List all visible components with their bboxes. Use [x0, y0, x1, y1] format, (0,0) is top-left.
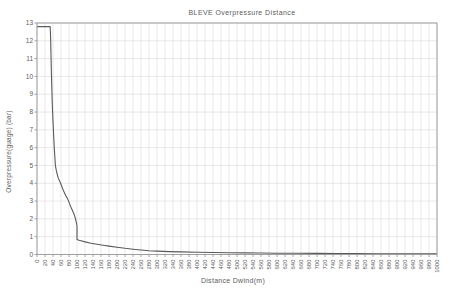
x-tick-label: 260: [138, 259, 144, 270]
x-tick-label: 560: [258, 259, 264, 270]
x-tick-label: 780: [346, 259, 352, 270]
y-tick-label: 6: [29, 144, 33, 151]
x-tick-label: 820: [362, 259, 368, 270]
y-tick-label: 13: [26, 19, 34, 26]
x-tick-label: 80: [66, 259, 72, 266]
y-tick-label: 3: [29, 197, 33, 204]
x-tick-label: 660: [298, 259, 304, 270]
x-tick-label: 320: [162, 259, 168, 270]
y-tick-labels: 012345678910111213: [26, 19, 34, 258]
y-tick-label: 9: [29, 90, 33, 97]
x-tick-label: 520: [242, 259, 248, 270]
y-tick-label: 2: [29, 215, 33, 222]
x-tick-label: 860: [378, 259, 384, 270]
x-tick-label: 360: [178, 259, 184, 270]
x-tick-label: 1000: [434, 259, 440, 273]
x-tick-label: 720: [322, 259, 328, 270]
y-tick-label: 0: [29, 251, 33, 258]
x-tick-label: 480: [226, 259, 232, 270]
x-tick-label: 400: [194, 259, 200, 270]
x-tick-label: 700: [314, 259, 320, 270]
x-tick-label: 840: [370, 259, 376, 270]
x-tick-label: 300: [154, 259, 160, 270]
x-tick-label: 460: [218, 259, 224, 270]
x-tick-label: 180: [106, 259, 112, 270]
x-tick-label: 100: [74, 259, 80, 270]
x-tick-label: 900: [394, 259, 400, 270]
x-tick-label: 540: [250, 259, 256, 270]
x-tick-label: 600: [274, 259, 280, 270]
x-tick-label: 280: [146, 259, 152, 270]
x-tick-label: 960: [418, 259, 424, 270]
x-tick-label: 240: [130, 259, 136, 270]
x-tick-label: 940: [410, 259, 416, 270]
bleve-overpressure-chart: BLEVE Overpressure Distance Overpressure…: [0, 0, 458, 300]
y-tick-label: 7: [29, 126, 33, 133]
x-tick-label: 160: [98, 259, 104, 270]
x-tick-label: 920: [402, 259, 408, 270]
x-tick-label: 740: [330, 259, 336, 270]
x-axis-title: Distance Dwind(m): [133, 277, 333, 284]
y-tick-label: 8: [29, 108, 33, 115]
x-tick-label: 760: [338, 259, 344, 270]
x-tick-label: 20: [42, 259, 48, 266]
x-tick-label: 640: [290, 259, 296, 270]
x-tick-label: 440: [210, 259, 216, 270]
x-tick-label: 800: [354, 259, 360, 270]
x-tick-label: 60: [58, 259, 64, 266]
x-tick-label: 120: [82, 259, 88, 270]
x-tick-label: 980: [426, 259, 432, 270]
axis-tick-marks: [35, 23, 438, 257]
x-tick-label: 880: [386, 259, 392, 270]
x-tick-label: 680: [306, 259, 312, 270]
x-tick-label: 0: [34, 259, 40, 263]
plot-area: 0204060801001201401601802002202402602803…: [0, 0, 458, 300]
y-tick-label: 1: [29, 233, 33, 240]
y-tick-label: 12: [26, 37, 34, 44]
x-tick-label: 380: [186, 259, 192, 270]
x-tick-label: 500: [234, 259, 240, 270]
x-tick-label: 620: [282, 259, 288, 270]
x-tick-label: 140: [90, 259, 96, 270]
y-tick-label: 11: [26, 55, 33, 62]
x-tick-label: 200: [114, 259, 120, 270]
y-tick-label: 5: [29, 162, 33, 169]
x-tick-label: 420: [202, 259, 208, 270]
x-tick-label: 340: [170, 259, 176, 270]
x-tick-label: 580: [266, 259, 272, 270]
y-tick-label: 10: [26, 73, 34, 80]
y-tick-label: 4: [29, 179, 33, 186]
x-tick-label: 40: [50, 259, 56, 266]
x-tick-labels: 0204060801001201401601802002202402602803…: [34, 259, 440, 273]
x-tick-label: 220: [122, 259, 128, 270]
gridlines: [37, 23, 437, 255]
